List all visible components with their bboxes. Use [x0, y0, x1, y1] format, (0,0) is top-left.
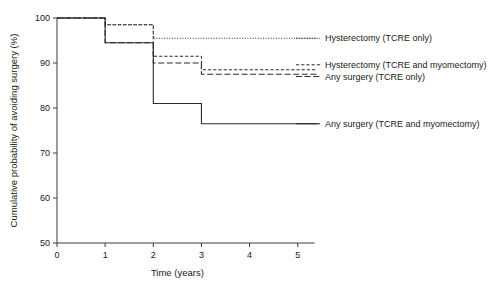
y-axis-title: Cumulative probability of avoiding surge… — [8, 34, 19, 228]
x-tick-label: 4 — [247, 250, 252, 260]
x-tick-label: 0 — [54, 250, 59, 260]
legend-label-3: Any surgery (TCRE and myomectomy) — [325, 119, 480, 129]
curve-series-0 — [57, 18, 317, 38]
x-tick-label: 1 — [103, 250, 108, 260]
y-tick-label: 100 — [35, 13, 50, 23]
curve-series-1 — [57, 18, 317, 70]
legend-label-0: Hysterectomy (TCRE only) — [325, 33, 432, 43]
y-tick-label: 90 — [40, 58, 50, 68]
curve-series-2 — [57, 18, 317, 74]
legend-label-1: Hysterectomy (TCRE and myomectomy) — [325, 60, 487, 70]
x-axis-title: Time (years) — [151, 267, 204, 278]
x-tick-label: 5 — [295, 250, 300, 260]
curve-series-3 — [57, 18, 317, 124]
legend-label-2: Any surgery (TCRE only) — [325, 72, 425, 82]
y-tick-label: 60 — [40, 193, 50, 203]
x-tick-label: 3 — [199, 250, 204, 260]
y-tick-label: 80 — [40, 103, 50, 113]
y-tick-label: 50 — [40, 238, 50, 248]
y-tick-label: 70 — [40, 148, 50, 158]
survival-chart: 5060708090100012345Time (years)Cumulativ… — [0, 0, 503, 287]
chart-canvas: 5060708090100012345Time (years)Cumulativ… — [0, 0, 503, 287]
x-tick-label: 2 — [151, 250, 156, 260]
